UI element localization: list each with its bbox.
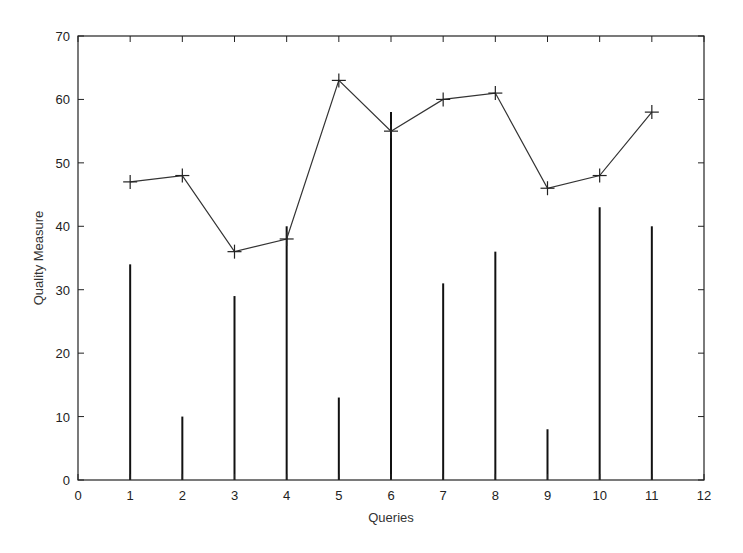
x-tick-label: 5 [335,488,342,503]
x-tick-label: 4 [283,488,290,503]
x-axis: 0123456789101112 [74,36,711,503]
y-tick-label: 50 [56,156,70,171]
plus-marker-icon [645,105,659,119]
y-axis-label: Quality Measure [31,211,46,306]
plus-marker-icon [541,181,555,195]
chart: 0123456789101112 010203040506070 Queries… [0,0,743,553]
x-tick-label: 2 [179,488,186,503]
y-tick-label: 70 [56,29,70,44]
y-tick-label: 10 [56,410,70,425]
y-tick-label: 20 [56,346,70,361]
plus-marker-icon [175,169,189,183]
x-tick-label: 1 [127,488,134,503]
y-tick-label: 30 [56,283,70,298]
x-tick-label: 8 [492,488,499,503]
plus-marker-icon [123,175,137,189]
impulse-series [130,112,652,480]
plus-marker-icon [280,232,294,246]
x-tick-label: 6 [387,488,394,503]
x-tick-label: 11 [645,488,659,503]
x-tick-label: 12 [697,488,711,503]
plus-marker-icon [436,92,450,106]
y-axis: 010203040506070 [56,29,704,488]
x-tick-label: 7 [440,488,447,503]
plus-marker-icon [228,245,242,259]
x-tick-label: 9 [544,488,551,503]
plus-marker-icon [593,169,607,183]
y-tick-label: 40 [56,219,70,234]
x-tick-label: 10 [592,488,606,503]
y-tick-label: 0 [63,473,70,488]
plus-marker-icon [488,86,502,100]
y-tick-label: 60 [56,92,70,107]
x-tick-label: 3 [231,488,238,503]
x-axis-label: Queries [368,510,414,525]
x-tick-label: 0 [74,488,81,503]
